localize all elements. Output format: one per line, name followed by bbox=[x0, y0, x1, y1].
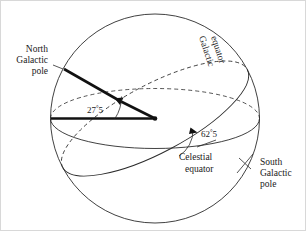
pole-tilt-angle-decimal: 5 bbox=[99, 105, 104, 115]
equator-inclination-value: 62 bbox=[201, 129, 210, 139]
equator-inclination-angle-label: 62°5 bbox=[201, 128, 218, 140]
north-galactic-pole-arrow-shaft bbox=[119, 101, 155, 119]
south-galactic-pole-label-line2: Galactic bbox=[260, 168, 292, 178]
sphere-centre-dot bbox=[153, 116, 158, 121]
south-galactic-pole-label-line3: pole bbox=[260, 179, 276, 189]
celestial-sphere-svg: North Galactic pole South Galactic pole … bbox=[1, 1, 306, 231]
north-galactic-pole-label-line2: Galactic bbox=[16, 55, 48, 65]
pole-tilt-angle-label: 27°5 bbox=[87, 104, 104, 116]
celestial-equator-label-line1: Celestial bbox=[179, 152, 213, 162]
north-galactic-pole-label-line1: North bbox=[26, 44, 48, 54]
north-galactic-pole-label-tick bbox=[53, 65, 63, 69]
south-galactic-pole-label-line1: South bbox=[260, 157, 282, 167]
north-galactic-pole-label-line3: pole bbox=[32, 66, 48, 76]
astronomy-diagram: North Galactic pole South Galactic pole … bbox=[0, 0, 306, 231]
celestial-equator-front-arc bbox=[51, 119, 260, 149]
equator-inclination-decimal: 5 bbox=[213, 129, 218, 139]
celestial-equator-label-line2: equator bbox=[185, 164, 214, 174]
celestial-equator-back-arc bbox=[51, 89, 260, 119]
north-galactic-pole-leader bbox=[64, 69, 120, 101]
equator-inclination-arrowhead bbox=[189, 128, 198, 135]
